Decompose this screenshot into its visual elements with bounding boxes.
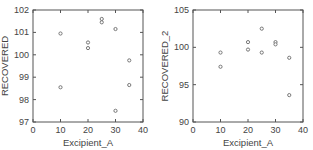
y-tick-label: 97 <box>19 117 29 127</box>
y-tick-label: 99 <box>19 72 29 82</box>
y-tick-label: 95 <box>179 80 189 90</box>
x-tick-label: 20 <box>83 125 93 135</box>
x-tick-label: 10 <box>55 125 65 135</box>
y-tick-label: 90 <box>179 117 189 127</box>
x-tick-label: 40 <box>138 125 148 135</box>
chart-panel-2: 0102030409095100105Excipient_ARECOVERED_… <box>159 5 308 148</box>
data-point <box>100 17 103 20</box>
y-tick-label: 98 <box>19 95 29 105</box>
y-tick-label: 101 <box>14 27 29 37</box>
scatter-plots: 010203040979899100101102Excipient_ARECOV… <box>0 0 313 150</box>
chart-panel-1: 010203040979899100101102Excipient_ARECOV… <box>0 5 148 148</box>
x-tick-label: 30 <box>110 125 120 135</box>
data-point <box>288 94 291 97</box>
y-axis-label: RECOVERED <box>0 36 10 96</box>
x-tick-label: 0 <box>30 125 35 135</box>
data-point <box>274 43 277 46</box>
data-point <box>100 21 103 24</box>
data-point <box>59 32 62 35</box>
x-tick-label: 10 <box>215 125 225 135</box>
data-point <box>114 27 117 30</box>
data-point <box>86 46 89 49</box>
data-point <box>86 41 89 44</box>
x-tick-label: 30 <box>270 125 280 135</box>
x-tick-label: 20 <box>243 125 253 135</box>
y-axis-label: RECOVERED_2 <box>159 31 170 102</box>
y-tick-label: 102 <box>14 5 29 15</box>
data-point <box>219 65 222 68</box>
data-point <box>260 27 263 30</box>
x-axis-label: Excipient_A <box>63 137 114 148</box>
data-point <box>128 59 131 62</box>
y-tick-label: 100 <box>174 42 189 52</box>
data-point <box>246 48 249 51</box>
x-tick-label: 40 <box>298 125 308 135</box>
data-point <box>288 56 291 59</box>
data-point <box>128 83 131 86</box>
y-tick-label: 100 <box>14 50 29 60</box>
data-point <box>59 86 62 89</box>
data-point <box>114 109 117 112</box>
y-tick-label: 105 <box>174 5 189 15</box>
plot-frame <box>193 10 303 122</box>
data-point <box>219 51 222 54</box>
data-point <box>246 41 249 44</box>
data-point <box>260 51 263 54</box>
x-axis-label: Excipient_A <box>223 137 274 148</box>
x-tick-label: 0 <box>190 125 195 135</box>
plot-frame <box>33 10 143 122</box>
